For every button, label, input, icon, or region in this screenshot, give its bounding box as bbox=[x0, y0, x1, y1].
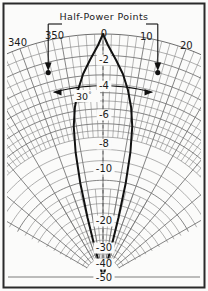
db-label--10: -10 bbox=[96, 163, 112, 174]
angle-label-340: 340 bbox=[8, 37, 27, 48]
polar-plot-canvas: 30° -2-4-6-8-10-20-30-40-5034035001020 H… bbox=[0, 0, 208, 291]
db-label--8: -8 bbox=[99, 138, 109, 149]
db-label--30: -30 bbox=[96, 242, 112, 253]
half-power-points-label: Half-Power Points bbox=[60, 11, 149, 22]
db-label--20: -20 bbox=[96, 215, 112, 226]
db-label--4: -4 bbox=[99, 80, 109, 91]
angle-label-350: 350 bbox=[45, 30, 64, 41]
beamwidth-degree-symbol: ° bbox=[88, 90, 91, 97]
beamwidth-label: 30 bbox=[76, 91, 88, 102]
header-annotation: Half-Power Points bbox=[60, 11, 149, 22]
db-label--6: -6 bbox=[99, 109, 109, 120]
db-label--40: -40 bbox=[96, 258, 112, 269]
angle-label-10: 10 bbox=[140, 31, 153, 42]
db-label--50: -50 bbox=[96, 272, 112, 283]
db-label--2: -2 bbox=[99, 54, 109, 65]
angle-label-0: 0 bbox=[101, 28, 107, 39]
angle-label-20: 20 bbox=[180, 40, 193, 51]
polar-pattern-figure: 30° -2-4-6-8-10-20-30-40-5034035001020 H… bbox=[0, 0, 208, 291]
